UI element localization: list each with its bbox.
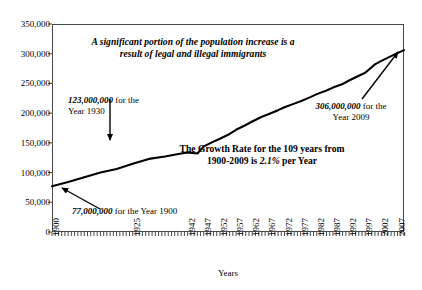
annotation-year-2009: 306,000,000 for the Year 2009 xyxy=(292,101,410,123)
annotation-year-1900: 77,000,000 for the Year 1900 xyxy=(72,206,242,217)
growth-rate-line-2-suffix: per Year xyxy=(280,155,317,166)
annotation-year-1930: 123,000,000 for the Year 1930 xyxy=(68,95,188,117)
annotation-1930-value: 123,000,000 xyxy=(68,95,113,105)
arrow-to-2009-point xyxy=(362,52,398,99)
annotation-immigrants: A significant portion of the population … xyxy=(63,36,323,60)
annotation-2009-value: 306,000,000 xyxy=(316,101,361,111)
growth-rate-line-2-prefix: 1900-2009 is xyxy=(207,155,260,166)
population-line-chart: for the United States 050,000100,000150,… xyxy=(0,0,422,290)
annotation-growth-rate: The Growth Rate for the 109 years from19… xyxy=(148,143,376,167)
growth-rate-value: 2.1% xyxy=(260,155,280,166)
annotation-1900-value: 77,000,000 xyxy=(72,206,113,216)
growth-rate-line-1: The Growth Rate for the 109 years from xyxy=(180,143,345,154)
x-axis-title: Years xyxy=(52,268,404,278)
annotation-1900-text: for the Year 1900 xyxy=(113,206,178,216)
